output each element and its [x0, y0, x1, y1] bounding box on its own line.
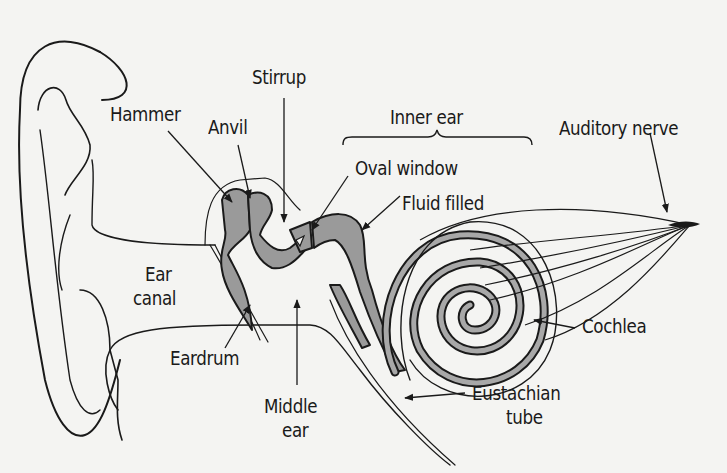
label-ear-canal-line2: canal: [133, 288, 176, 309]
eardrum-pointer: [225, 305, 250, 348]
eustachian-tube-pointer: [405, 393, 465, 398]
label-middle-ear-line2: ear: [282, 420, 308, 441]
label-middle-ear-line1: Middle: [264, 396, 317, 417]
label-fluid-filled: Fluid filled: [402, 193, 484, 214]
hammer-pointer: [168, 131, 232, 202]
label-eardrum: Eardrum: [170, 348, 239, 369]
label-inner-ear: Inner ear: [390, 107, 463, 128]
ear-diagram: Stirrup Hammer Anvil Inner ear Auditory …: [0, 0, 727, 473]
cochlea-spiral: [386, 222, 556, 397]
label-ear-canal-line1: Ear: [145, 264, 172, 285]
label-eustachian-tube-line2: tube: [506, 407, 543, 428]
label-eustachian-tube-line1: Eustachian: [472, 383, 560, 404]
label-hammer: Hammer: [110, 104, 180, 125]
label-auditory-nerve: Auditory nerve: [559, 118, 678, 139]
label-anvil: Anvil: [208, 117, 247, 138]
label-oval-window: Oval window: [355, 158, 458, 179]
auditory-nerve-pointer: [650, 133, 667, 212]
fluid-filled-pointer: [362, 196, 400, 230]
inner-ear-brace: [343, 130, 532, 145]
label-cochlea: Cochlea: [582, 316, 646, 337]
label-stirrup: Stirrup: [252, 67, 306, 88]
ear-anatomy-drawing: [0, 0, 727, 473]
